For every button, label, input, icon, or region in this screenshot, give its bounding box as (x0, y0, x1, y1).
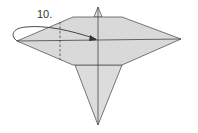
origami-diagram: 10. (0, 0, 198, 133)
step-number-label: 10. (37, 9, 52, 20)
diagram-svg (0, 0, 198, 133)
lower-point-flap (75, 65, 122, 125)
